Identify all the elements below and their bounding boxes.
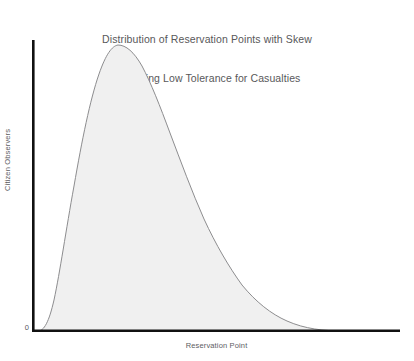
y-axis-label-container: Citizen Observers bbox=[3, 131, 15, 191]
x-axis-label: Reservation Point bbox=[33, 341, 400, 350]
y-axis-origin-tick-label: 0 bbox=[18, 323, 29, 332]
distribution-area-curve bbox=[38, 45, 400, 331]
y-axis-label: Citizen Observers bbox=[3, 131, 12, 191]
plot-area bbox=[0, 0, 414, 361]
chart-container: Distribution of Reservation Points with … bbox=[0, 0, 414, 361]
